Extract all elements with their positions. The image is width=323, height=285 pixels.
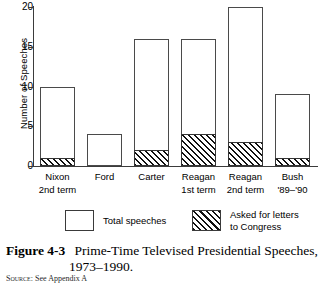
- category-label-line1: Bush: [266, 170, 319, 183]
- x-axis-line: [33, 166, 318, 167]
- bar-group: [228, 7, 263, 166]
- category-label-line1: Ford: [78, 170, 131, 183]
- bar-asked-for-letters: [275, 158, 310, 166]
- bar-asked-for-letters: [40, 158, 75, 166]
- figure-caption-line1: Prime-Time Televised Presidential Speech…: [74, 243, 318, 258]
- category-label-line1: Carter: [125, 170, 178, 183]
- bar-total-speeches: [134, 39, 169, 166]
- bar-asked-for-letters: [228, 142, 263, 166]
- legend-label-line2: to Congress: [230, 221, 299, 233]
- category-label-line1: Reagan: [172, 170, 225, 183]
- y-axis-tick-mark: [28, 126, 34, 127]
- legend-label: Asked for lettersto Congress: [230, 209, 299, 232]
- bar-asked-for-letters: [134, 150, 169, 166]
- legend-swatch-open: [65, 210, 94, 231]
- figure-source-note: Source: See Appendix A: [6, 274, 87, 283]
- x-axis-category-4: Reagan1st term: [172, 170, 225, 196]
- category-label-line2: 2nd term: [219, 183, 272, 196]
- category-label-line2: '89–'90: [266, 183, 319, 196]
- legend-swatch-hatched: [192, 210, 221, 231]
- category-label-line2: 2nd term: [31, 183, 84, 196]
- figure-source-text: See Appendix A: [35, 274, 87, 283]
- x-axis-category-1: Nixon2nd term: [31, 170, 84, 196]
- category-label-line1: Reagan: [219, 170, 272, 183]
- bar-chart-figure: Number of Speeches 05101520 Nixon2nd ter…: [0, 0, 323, 200]
- legend-label: Total speeches: [103, 215, 166, 227]
- legend-label-line1: Total speeches: [103, 215, 166, 227]
- bar-group: [134, 39, 169, 166]
- bar-group: [87, 134, 122, 166]
- y-axis-tick-mark: [28, 166, 34, 167]
- bar-asked-for-letters: [181, 134, 216, 166]
- bar-total-speeches: [40, 87, 75, 167]
- bar-total-speeches: [87, 134, 122, 166]
- figure-caption-line2: 1973–1990.: [69, 259, 318, 275]
- x-axis-category-6: Bush'89–'90: [266, 170, 319, 196]
- x-axis-category-3: Carter: [125, 170, 178, 183]
- bar-group: [275, 94, 310, 166]
- figure-source-label: Source:: [6, 274, 33, 283]
- bar-total-speeches: [275, 94, 310, 166]
- category-label-line2: 1st term: [172, 183, 225, 196]
- chart-legend: Total speechesAsked for lettersto Congre…: [0, 205, 323, 241]
- figure-caption: Figure 4-3Prime-Time Televised President…: [6, 243, 318, 274]
- bar-group: [40, 87, 75, 167]
- y-axis-tick-mark: [28, 87, 34, 88]
- bar-group: [181, 39, 216, 166]
- y-axis-tick-mark: [28, 7, 34, 8]
- figure-caption-label: Figure 4-3: [6, 243, 65, 258]
- legend-label-line1: Asked for letters: [230, 209, 299, 221]
- x-axis-category-5: Reagan2nd term: [219, 170, 272, 196]
- y-axis-tick-mark: [28, 47, 34, 48]
- x-axis-category-2: Ford: [78, 170, 131, 183]
- category-label-line1: Nixon: [31, 170, 84, 183]
